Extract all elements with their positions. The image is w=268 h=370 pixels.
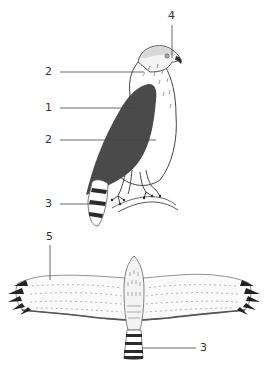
label-4: 4 (168, 10, 175, 21)
hawk-illustration (0, 0, 268, 370)
perched-hawk (86, 46, 182, 226)
flying-hawk (8, 256, 260, 360)
label-2-lower: 2 (45, 134, 52, 145)
hawk-diagram: 4 2 1 2 3 5 3 (0, 0, 268, 370)
label-5: 5 (46, 231, 53, 242)
label-1: 1 (45, 102, 52, 113)
label-3-perched-tail: 3 (45, 198, 52, 209)
label-3-flying-tail: 3 (200, 342, 207, 353)
label-2-upper: 2 (45, 66, 52, 77)
